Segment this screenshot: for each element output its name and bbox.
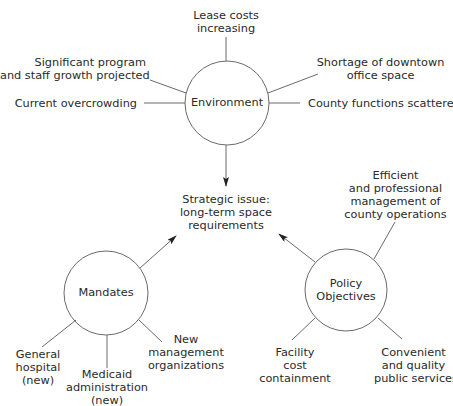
- connector-convenient: [378, 318, 402, 339]
- factor-new-management: New management organizations: [140, 333, 232, 372]
- factor-overcrowding: Current overcrowding: [0, 97, 137, 110]
- strategic-issue-label: Strategic issue: long-term space require…: [166, 193, 286, 232]
- mandates-label: Mandates: [66, 286, 146, 299]
- objective-efficient-management: Efficient and professional management of…: [338, 169, 453, 221]
- connector-facility: [292, 318, 315, 340]
- arrow-policy-to-issue: [279, 234, 315, 262]
- arrow-mandates-to-issue: [140, 236, 176, 268]
- factor-functions-scattered: County functions scattered: [308, 97, 453, 110]
- factor-general-hospital: General hospital (new): [8, 348, 68, 387]
- factor-medicaid: Medicaid administration (new): [62, 368, 152, 406]
- connector-hospital: [42, 320, 76, 347]
- connector-efficient: [374, 222, 395, 259]
- connector-growth: [150, 80, 186, 93]
- policy-objectives-label: Policy Objectives: [306, 277, 386, 303]
- objective-convenient-services: Convenient and quality public services: [374, 346, 453, 385]
- objective-facility-cost: Facility cost containment: [255, 346, 335, 385]
- factor-downtown-shortage: Shortage of downtown office space: [308, 56, 453, 82]
- factor-lease-costs: Lease costs increasing: [176, 9, 276, 35]
- factor-staff-growth: Significant program and staff growth pro…: [0, 56, 146, 82]
- environment-label: Environment: [187, 96, 267, 109]
- strategic-issue-diagram: Environment Lease costs increasing Signi…: [0, 0, 453, 406]
